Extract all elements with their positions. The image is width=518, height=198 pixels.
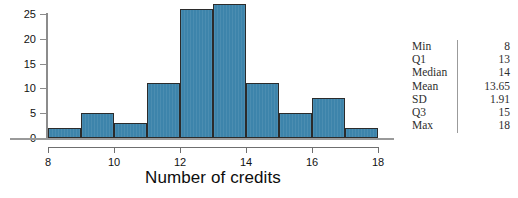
y-axis-tick	[40, 88, 46, 89]
histogram-bar	[246, 83, 279, 138]
x-axis-tick	[180, 147, 181, 153]
x-axis-tick	[312, 147, 313, 153]
y-axis-tick	[40, 14, 46, 15]
y-axis-tick-label: 25	[2, 9, 36, 20]
histogram-bar	[147, 83, 180, 138]
histogram-bar	[180, 9, 213, 138]
histogram-bars	[48, 8, 378, 138]
y-axis-tick	[40, 64, 46, 65]
x-axis-tick	[378, 147, 379, 153]
x-axis-tick-label: 14	[231, 156, 261, 168]
stats-value: 15	[462, 106, 510, 119]
y-axis-tick	[40, 113, 46, 114]
x-axis-tick-label: 18	[363, 156, 393, 168]
stats-value: 14	[462, 66, 510, 79]
histogram-panel: 0510152025 81012141618 Number of credits	[0, 0, 400, 198]
x-axis-title: Number of credits	[48, 168, 378, 188]
stats-label: Q1	[412, 53, 458, 66]
x-axis-tick	[48, 147, 49, 153]
histogram-bar	[114, 123, 147, 138]
y-axis-tick-label: 15	[2, 59, 36, 70]
stats-label: SD	[412, 93, 458, 106]
stats-row: Median14	[412, 66, 510, 79]
histogram-bar	[213, 4, 246, 138]
x-axis-tick-label: 16	[297, 156, 327, 168]
x-axis-baseline	[10, 138, 394, 140]
histogram-figure: 0510152025 81012141618 Number of credits…	[0, 0, 518, 198]
stats-row: Q315	[412, 106, 510, 119]
stats-value: 8	[462, 40, 510, 53]
stats-value: 18	[462, 119, 510, 132]
histogram-bar	[81, 113, 114, 138]
y-axis-tick-label: 10	[2, 83, 36, 94]
stats-value: 13.65	[462, 80, 510, 93]
x-axis-tick-label: 10	[99, 156, 129, 168]
x-axis-tick	[114, 147, 115, 153]
stats-value: 1.91	[462, 93, 510, 106]
x-axis-tick-label: 12	[165, 156, 195, 168]
stats-label: Q3	[412, 106, 458, 119]
stats-label: Min	[412, 40, 458, 53]
stats-row: Max18	[412, 119, 510, 132]
stats-row: Q113	[412, 53, 510, 66]
stats-row: Min8	[412, 40, 510, 53]
histogram-bar	[345, 128, 378, 138]
stats-row: Mean13.65	[412, 80, 510, 93]
summary-statistics-table: Min8Q113Median14Mean13.65SD1.91Q315Max18	[412, 40, 510, 132]
y-axis-tick-label: 5	[2, 108, 36, 119]
histogram-bar	[279, 113, 312, 138]
x-axis-tick	[246, 147, 247, 153]
stats-label: Max	[412, 119, 458, 132]
stats-row: SD1.91	[412, 93, 510, 106]
stats-label: Median	[412, 66, 458, 79]
histogram-bar	[312, 98, 345, 138]
x-axis-line	[48, 147, 378, 148]
y-axis-tick	[40, 39, 46, 40]
x-axis-tick-label: 8	[33, 156, 63, 168]
histogram-bar	[48, 128, 81, 138]
y-axis-tick-label: 20	[2, 34, 36, 45]
stats-value: 13	[462, 53, 510, 66]
stats-label: Mean	[412, 80, 458, 93]
